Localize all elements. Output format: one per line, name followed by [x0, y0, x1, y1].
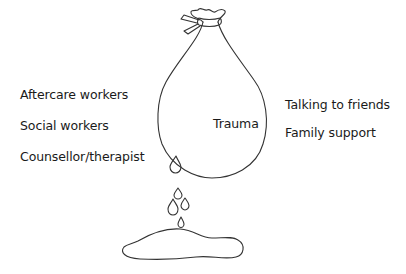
- drops: [168, 156, 189, 228]
- left-label-social-workers: Social workers: [20, 119, 109, 133]
- left-label-counsellor-therapist: Counsellor/therapist: [20, 150, 145, 164]
- water-drop-icon: [178, 217, 184, 228]
- sack-body-icon: [158, 22, 267, 178]
- water-drop-icon: [168, 199, 178, 215]
- water-drop-icon: [174, 188, 182, 199]
- sack-center-label: Trauma: [213, 117, 259, 131]
- right-label-talking-to-friends: Talking to friends: [285, 98, 390, 112]
- puddle-icon: [123, 229, 244, 260]
- right-label-family-support: Family support: [285, 126, 376, 140]
- water-drop-icon: [181, 198, 189, 210]
- left-label-aftercare-workers: Aftercare workers: [20, 88, 128, 102]
